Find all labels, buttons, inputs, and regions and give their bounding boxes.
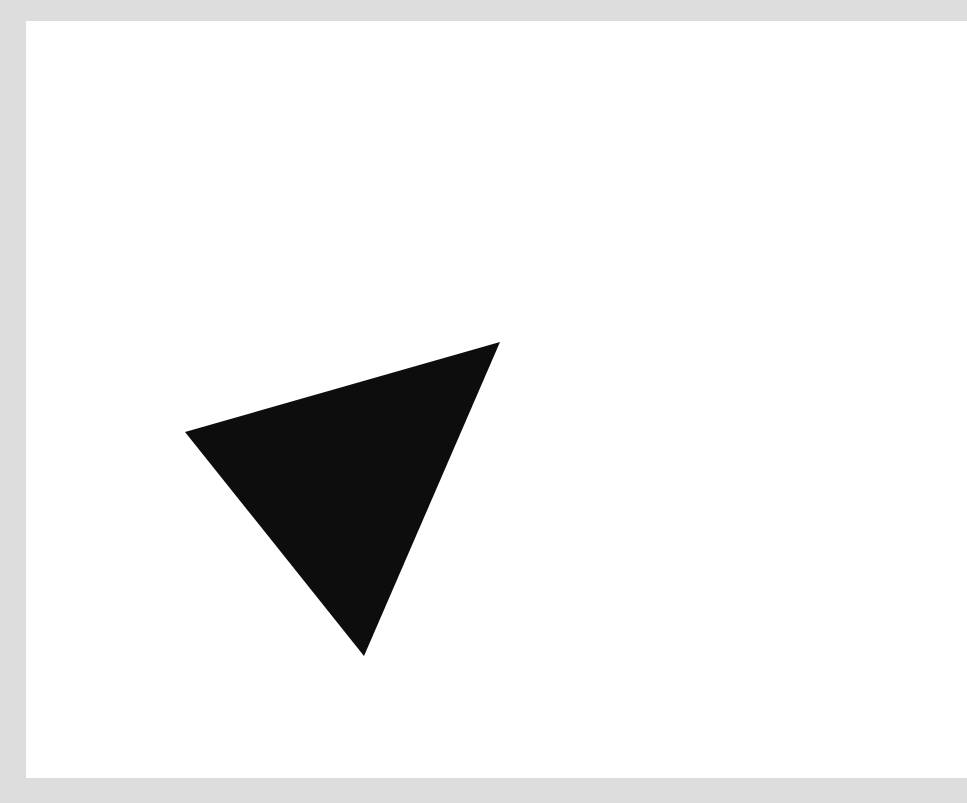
image-canvas	[0, 0, 967, 803]
black-triangle-shape	[185, 342, 500, 656]
figure-layer	[0, 0, 967, 803]
